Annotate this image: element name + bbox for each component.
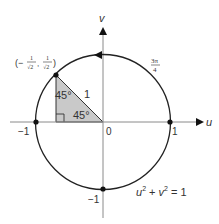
svg-text:1: 1 [46,55,49,61]
svg-text:1: 1 [30,55,33,61]
angle-3pi-4-label: 3π 4 [151,57,160,74]
tick-1-x: 1 [172,126,178,137]
svg-text:(−: (− [15,58,23,68]
svg-text:4: 4 [153,66,157,74]
direction-arrow-icon [94,51,102,59]
top-angle-label: 45° [55,89,72,101]
svg-text:): ) [53,58,56,68]
bottom-angle-label: 45° [73,109,90,121]
v-axis-label: v [99,12,106,24]
u-axis-label: u [206,116,212,128]
point-0-neg1 [100,186,105,191]
origin-label: 0 [106,126,112,137]
svg-text:√2: √2 [43,64,49,70]
svg-text:,: , [37,59,39,68]
u-axis-arrow-icon [196,118,204,126]
svg-text:u2 + v2 = 1: u2 + v2 = 1 [136,185,187,198]
tick-neg1-y: −1 [88,194,100,205]
v-axis-arrow-icon [99,27,107,35]
point-coordinates-label: (− 1 √2 , 1 √2 ) [15,55,56,70]
hypotenuse-label: 1 [84,88,90,100]
tick-neg1-x: −1 [18,126,30,137]
point-1-0 [167,119,172,124]
point-3pi-4 [53,72,58,77]
svg-text:3π: 3π [151,57,159,65]
svg-text:√2: √2 [27,64,33,70]
circle-equation: u2 + v2 = 1 [136,185,187,198]
point-neg1-0 [33,119,38,124]
unit-circle-diagram: u v 0 −1 1 −1 (− 1 √2 , 1 √2 ) 45° 45° 1… [0,0,219,224]
